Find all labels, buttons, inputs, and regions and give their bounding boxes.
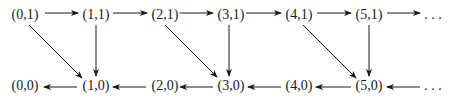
- edge-arrow-n41-to-n50: [303, 25, 356, 78]
- node-n11: (1,1): [82, 8, 111, 22]
- node-n50: (5,0): [355, 79, 384, 93]
- state-transition-diagram: (0,1)(1,1)(2,1)(3,1)(4,1)(5,1). . .(0,0)…: [0, 0, 454, 100]
- node-n01: (0,1): [11, 8, 40, 22]
- edge-group: [29, 13, 420, 87]
- ellipsis-continuation: . . .: [423, 79, 443, 93]
- node-n31: (3,1): [217, 8, 246, 22]
- node-n20: (2,0): [151, 79, 180, 93]
- node-n10: (1,0): [82, 79, 111, 93]
- edge-arrow-n01-to-n10: [29, 25, 82, 78]
- node-n30: (3,0): [217, 79, 246, 93]
- node-n21: (2,1): [151, 8, 180, 22]
- ellipsis-continuation: . . .: [423, 8, 443, 22]
- node-n00: (0,0): [11, 79, 40, 93]
- node-n41: (4,1): [285, 8, 314, 22]
- edge-arrow-n21-to-n30: [165, 25, 217, 77]
- node-n51: (5,1): [355, 8, 384, 22]
- node-n40: (4,0): [285, 79, 314, 93]
